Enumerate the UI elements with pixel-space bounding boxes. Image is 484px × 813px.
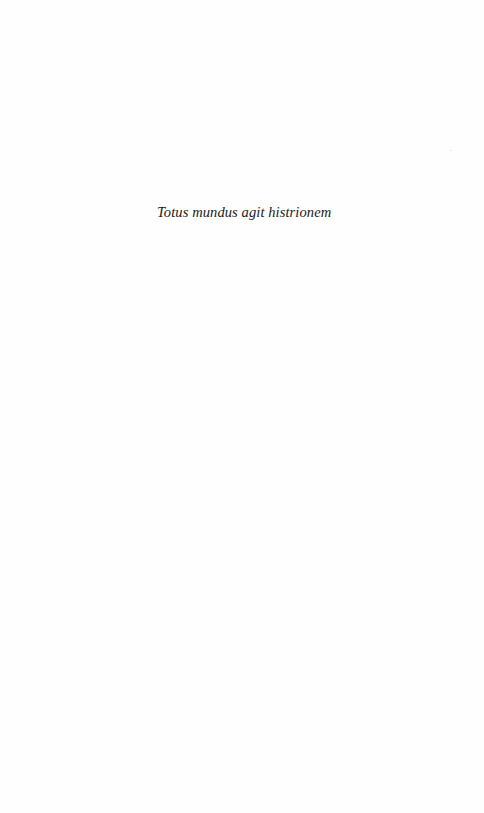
epigraph: Totus mundus agit histrionem [157,204,331,221]
paper-speck [450,150,452,151]
book-page: Totus mundus agit histrionem [0,0,484,813]
